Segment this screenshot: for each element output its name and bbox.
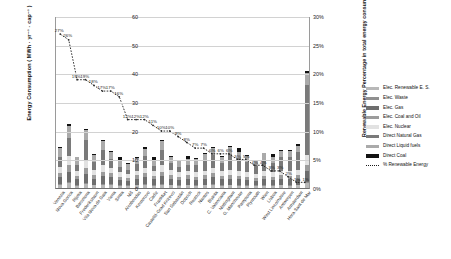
line-point-label: 17% (97, 85, 106, 90)
line-point-label: 6% (218, 148, 224, 153)
bar-segment (75, 186, 79, 188)
bar-segment (228, 185, 232, 188)
chart-figure: Energy Consumption ( MWh · yr⁻¹ · cap⁻¹ … (0, 0, 451, 259)
legend-label: Elec. Renewable E. S. (383, 86, 430, 91)
bar-stack (262, 153, 266, 188)
bar-stack (58, 147, 62, 188)
bar-segment (305, 165, 309, 172)
bar-stack (271, 154, 275, 188)
legend-item[interactable]: Elec. Coal and Oil (366, 113, 451, 123)
bar-segment (84, 140, 88, 160)
y-axis-tick-left: 40 (114, 71, 138, 77)
bar-segment (203, 185, 207, 188)
bar-segment (237, 186, 241, 188)
bar-segment (143, 185, 147, 188)
line-point-label: 10% (157, 125, 166, 130)
bar-segment (254, 166, 258, 174)
legend-item[interactable]: Direct Natural Gas (366, 132, 451, 142)
legend-swatch (366, 116, 379, 119)
bar-segment (160, 176, 164, 183)
bar-segment (101, 141, 105, 150)
line-point-label: 10% (165, 125, 174, 130)
bar-segment (186, 185, 190, 188)
bar-segment (101, 185, 105, 188)
line-point-label: 9% (175, 131, 181, 136)
bar-segment (177, 186, 181, 188)
legend-item[interactable]: Elec. Nuclear (366, 122, 451, 132)
line-point-label: 12% (131, 114, 140, 119)
line-point-label: 16% (114, 91, 123, 96)
bar-stack (84, 129, 88, 188)
line-point-label: 8% (184, 137, 190, 142)
line-point-label: 7% (192, 142, 198, 147)
bar-stack (177, 160, 181, 188)
line-point-label: 2% (286, 171, 292, 176)
line-point-label: 1% (303, 177, 309, 182)
bar-segment (271, 186, 275, 188)
bar-segment (152, 186, 156, 188)
legend-label: Direct Natural Gas (383, 134, 422, 139)
line-point-label: 4% (260, 160, 266, 165)
bar-segment (109, 185, 113, 188)
bar-segment (211, 155, 215, 168)
bar-stack (101, 140, 105, 188)
bar-segment (58, 148, 62, 157)
gridline (56, 160, 309, 161)
plot-area (55, 17, 310, 189)
line-point-label: 3% (269, 165, 275, 170)
bar-segment (101, 176, 105, 183)
legend-label: Elec. Coal and Oil (383, 115, 421, 120)
bar-segment (109, 177, 113, 184)
line-point-label: 19% (80, 74, 89, 79)
legend-swatch (366, 106, 379, 109)
gridline (56, 103, 309, 104)
bar-segment (160, 185, 164, 188)
legend-label: Direct Liquid fuels (383, 144, 420, 149)
bar-segment (296, 185, 300, 188)
bar-segment (160, 141, 164, 150)
y-axis-tick-right: 5% (313, 157, 337, 163)
bar-stack (288, 150, 292, 188)
y-axis-tick-right: 30% (313, 14, 337, 20)
bar-segment (58, 177, 62, 184)
y-axis-tick-left: 60 (114, 14, 138, 20)
bar-segment (228, 154, 232, 169)
legend-item[interactable]: Elec. Waste (366, 94, 451, 104)
bar-segment (220, 186, 224, 188)
bar-stack (203, 153, 207, 188)
bar-segment (84, 184, 88, 188)
bar-segment (194, 165, 198, 172)
line-point-label: 7% (201, 142, 207, 147)
y-axis-tick-right: 15% (313, 100, 337, 106)
y-axis-tick-left: 10 (114, 157, 138, 163)
line-point-label: 4% (252, 160, 258, 165)
line-point-label: 26% (63, 33, 72, 38)
bar-segment (67, 172, 71, 182)
line-point-label: 6% (209, 148, 215, 153)
bar-segment (101, 165, 105, 172)
bar-segment (84, 161, 88, 169)
legend-swatch (366, 154, 379, 157)
line-point-label: 12% (123, 114, 132, 119)
legend-item[interactable]: Direct Liquid fuels (366, 142, 451, 152)
bar-stack (67, 124, 71, 188)
bar-stack (143, 147, 147, 188)
bar-stack (109, 151, 113, 188)
legend-item[interactable]: Elec. Gas (366, 103, 451, 113)
bar-stack (126, 163, 130, 188)
y-axis-tick-left: 30 (114, 100, 138, 106)
legend-item[interactable]: Direct Coal (366, 151, 451, 161)
legend-item-renewable-line[interactable]: % Renewable Energy (366, 161, 451, 171)
legend-label: Elec. Gas (383, 106, 403, 111)
bar-segment (262, 186, 266, 188)
bar-segment (143, 177, 147, 184)
bar-segment (58, 185, 62, 188)
bar-segment (101, 150, 105, 165)
y-axis-tick-right: 0% (313, 186, 337, 192)
line-point-label: 5% (235, 154, 241, 159)
bar-segment (305, 183, 309, 188)
legend-item[interactable]: Elec. Renewable E. S. (366, 84, 451, 94)
bar-segment (211, 177, 215, 184)
y-axis-tick-right: 10% (313, 129, 337, 135)
bar-segment (92, 162, 96, 169)
